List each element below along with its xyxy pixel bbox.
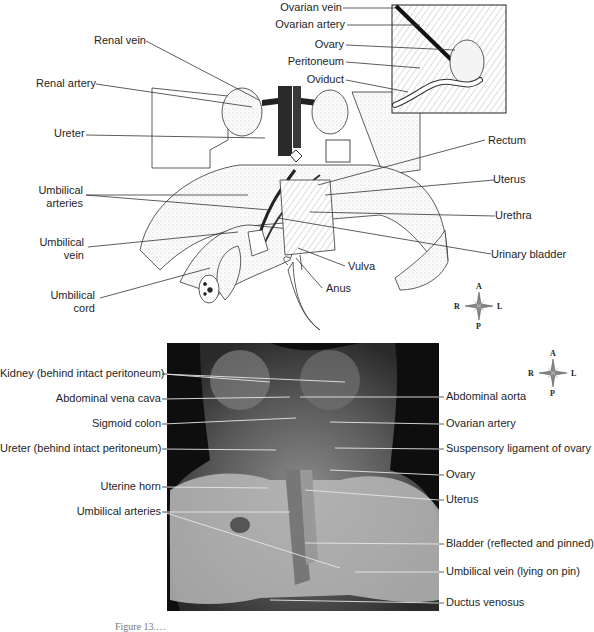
label-urethra: Urethra	[495, 209, 532, 222]
dissection-photo	[167, 343, 439, 611]
label-uterine-horn: Uterine horn	[0, 480, 161, 493]
label-kidney: Kidney (behind intact peritoneum)	[0, 367, 161, 380]
label-sigmoid-colon: Sigmoid colon	[0, 417, 161, 430]
label-rectum: Rectum	[488, 134, 526, 147]
label-bladder: Bladder (reflected and pinned)	[446, 537, 594, 550]
label-umbilical-vein: Umbilical vein	[30, 236, 84, 262]
label-umbilical-arteries-photo: Umbilical arteries	[0, 505, 161, 518]
label-ovarian-artery: Ovarian artery	[250, 18, 345, 31]
label-renal-vein: Renal vein	[94, 34, 146, 47]
label-suspensory-ligament: Suspensory ligament of ovary	[446, 442, 591, 455]
figure-caption: Figure 13.…	[115, 621, 166, 632]
compass-bottom: A P R L	[534, 353, 574, 393]
label-urinary-bladder: Urinary bladder	[491, 248, 566, 261]
label-ovary-inset: Ovary	[250, 38, 344, 51]
label-anus: Anus	[326, 282, 351, 295]
label-ovary-photo: Ovary	[446, 468, 475, 481]
tail	[288, 262, 320, 330]
label-umbilical-vein-photo: Umbilical vein (lying on pin)	[446, 565, 580, 578]
label-vulva: Vulva	[348, 260, 375, 273]
label-abdominal-vena-cava: Abdominal vena cava	[0, 392, 161, 405]
label-umbilical-cord: Umbilical cord	[40, 289, 95, 315]
label-ureter: Ureter	[54, 127, 85, 140]
label-uterus-photo: Uterus	[446, 493, 478, 506]
label-renal-artery: Renal artery	[36, 77, 96, 90]
label-uterus: Uterus	[493, 173, 525, 186]
compass-top: A P R L	[460, 286, 500, 326]
label-abdominal-aorta: Abdominal aorta	[446, 390, 526, 403]
label-peritoneum: Peritoneum	[250, 55, 344, 68]
label-oviduct: Oviduct	[250, 73, 344, 86]
label-ureter-photo: Ureter (behind intact peritoneum)	[0, 442, 161, 455]
label-ductus-venosus: Ductus venosus	[446, 596, 524, 609]
label-ovarian-vein: Ovarian vein	[250, 1, 342, 14]
label-umbilical-arteries: Umbilical arteries	[30, 184, 83, 210]
label-ovarian-artery-photo: Ovarian artery	[446, 417, 516, 430]
